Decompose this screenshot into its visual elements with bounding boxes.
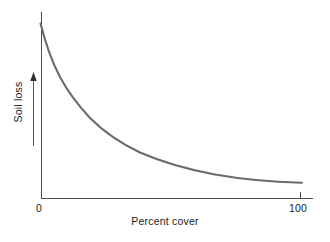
x-axis-tick-label-0: 0 bbox=[36, 202, 42, 214]
y-axis-title: Soil loss bbox=[12, 68, 24, 136]
chart-figure: 0 100 Percent cover Soil loss bbox=[0, 0, 330, 242]
x-axis-title: Percent cover bbox=[0, 215, 330, 227]
x-axis-tick-label-100: 100 bbox=[289, 202, 307, 214]
y-axis-arrow-head-icon bbox=[30, 72, 36, 81]
plot-area bbox=[0, 0, 330, 242]
soil-loss-curve bbox=[41, 24, 303, 183]
